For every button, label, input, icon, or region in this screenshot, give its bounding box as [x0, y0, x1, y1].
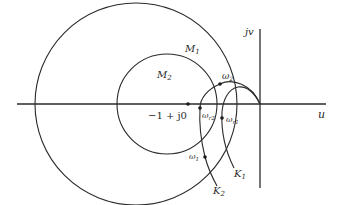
k1-label: K1: [233, 168, 246, 181]
critical-point-label: −1 + j0: [148, 110, 187, 121]
critical-point-marker: [186, 102, 190, 106]
omega2-marker: [218, 82, 222, 86]
omega1-label: ω1: [189, 152, 199, 162]
k2-curve: [200, 82, 260, 186]
vertical-axis-label: jv: [243, 26, 254, 37]
omega1-marker: [203, 155, 207, 159]
omega-r2-marker: [198, 106, 202, 110]
m1-label: M1: [184, 43, 200, 56]
k1-curve: [222, 87, 260, 168]
omega-r1-marker: [220, 116, 224, 120]
omega-r2-label: ωr2: [202, 111, 215, 121]
m-circle-diagram: jv u M1 M2 −1 + j0 ω2 ωr2 ωr1 ω1 K1 K2: [0, 0, 340, 205]
horizontal-axis-label: u: [318, 108, 325, 121]
k2-label: K2: [212, 185, 225, 198]
m2-label: M2: [156, 69, 172, 82]
